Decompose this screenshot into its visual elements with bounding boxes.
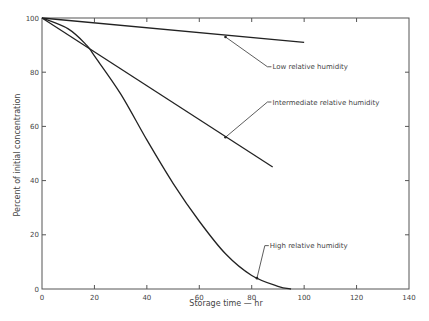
axis-ticks: 020406080100120140020406080100: [26, 15, 416, 303]
annotation-arrowhead: [224, 136, 227, 139]
annotation-label: Low relative humidity: [272, 63, 348, 71]
y-tick-label: 0: [35, 286, 39, 294]
annotation-leader: [226, 102, 272, 137]
y-tick-label: 40: [30, 177, 39, 185]
x-tick-label: 140: [402, 294, 415, 302]
y-axis-label: Percent of initial concentration: [13, 94, 22, 217]
x-tick-label: 120: [350, 294, 363, 302]
x-axis-label: Storage time — hr: [189, 299, 263, 308]
series-line-2: [42, 18, 291, 289]
y-tick-label: 100: [26, 15, 39, 23]
series-lines: [42, 18, 304, 289]
annotation-label: High relative humidity: [270, 242, 348, 250]
annotation-label: Intermediate relative humidity: [272, 99, 379, 107]
y-tick-label: 60: [30, 123, 39, 131]
annotation-arrowhead: [224, 36, 227, 39]
x-tick-label: 0: [40, 294, 44, 302]
y-tick-label: 80: [30, 69, 39, 77]
series-line-0: [42, 18, 304, 42]
series-line-1: [42, 18, 273, 167]
decay-chart: 020406080100120140020406080100 Low relat…: [0, 0, 429, 321]
annotation-leader: [226, 37, 272, 67]
x-tick-label: 100: [297, 294, 310, 302]
annotation-arrowhead: [256, 277, 259, 280]
x-tick-label: 20: [90, 294, 99, 302]
annotations: Low relative humidityIntermediate relati…: [224, 36, 379, 280]
y-tick-label: 20: [30, 231, 39, 239]
x-tick-label: 40: [142, 294, 151, 302]
annotation-leader: [257, 246, 269, 279]
